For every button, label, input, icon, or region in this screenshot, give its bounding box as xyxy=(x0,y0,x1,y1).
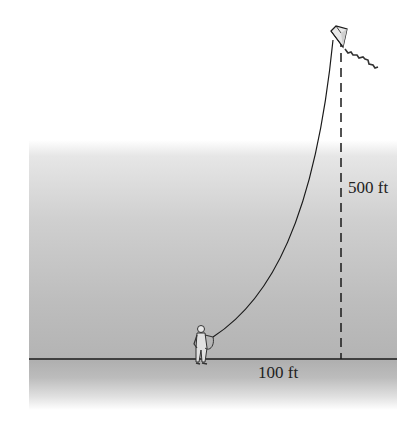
person-icon xyxy=(194,326,213,365)
horizontal-distance-label: 100 ft xyxy=(258,363,298,383)
kite-string xyxy=(213,40,333,337)
height-label: 500 ft xyxy=(348,178,388,198)
kite-diagram xyxy=(0,0,419,423)
kite-icon xyxy=(331,26,378,68)
